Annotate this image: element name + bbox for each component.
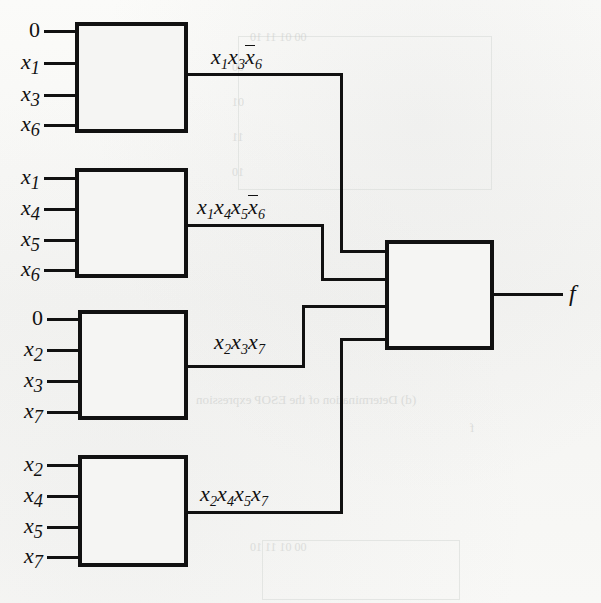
and-gate-1-to-or-wire — [340, 250, 388, 253]
input-label-text: x — [21, 49, 31, 74]
and-gate-2-input-wire-1 — [44, 177, 77, 180]
and-gate-4-to-or-wire — [340, 338, 388, 341]
term-sub: 5 — [244, 493, 251, 509]
input-label-text: x — [21, 111, 31, 136]
input-label-sub: 1 — [31, 173, 40, 193]
input-label-text: x — [21, 226, 31, 251]
and-gate-2-input-wire-3 — [44, 239, 77, 242]
input-label-sub: 7 — [34, 407, 43, 427]
term-literal: x — [251, 481, 261, 506]
term-sub: 7 — [258, 341, 265, 357]
and-gate-3-input-wire-1 — [47, 318, 80, 321]
term-sub: 1 — [221, 56, 228, 72]
and-gate-3-input-label-4: x7 — [19, 400, 43, 427]
and-gate-4-input-label-3: x5 — [19, 515, 43, 542]
input-label-text: x — [24, 513, 34, 538]
and-gate-2-input-wire-4 — [44, 269, 77, 272]
and-gate-4[interactable] — [78, 455, 188, 567]
input-label-text: x — [24, 451, 34, 476]
input-label-text: x — [24, 543, 34, 568]
term-literal: x — [211, 44, 221, 69]
bleed-text-1: 00 01 11 10 — [250, 30, 307, 45]
input-label-sub: 3 — [34, 376, 43, 396]
term-literal: x — [234, 481, 244, 506]
bleed-text-4: 11 — [232, 130, 244, 145]
and-gate-3-to-or-wire — [302, 305, 388, 308]
term-sub: 6 — [258, 206, 265, 222]
input-label-sub: 7 — [34, 552, 43, 572]
product-term-label-4: x2x4x5x7 — [200, 483, 268, 508]
term-literal: x — [214, 194, 224, 219]
input-label-text: x — [21, 256, 31, 281]
and-gate-3-input-label-3: x3 — [19, 369, 43, 396]
term-literal: x — [248, 329, 258, 354]
and-gate-3-input-wire-2 — [47, 349, 80, 352]
and-gate-1-input-wire-4 — [44, 124, 77, 127]
and-gate-1-input-label-2: x1 — [16, 51, 40, 78]
term-sub: 4 — [224, 206, 231, 222]
and-gate-1-input-label-4: x6 — [16, 113, 40, 140]
and-gate-3-output-riser — [302, 305, 305, 368]
bleed-kmap-1 — [238, 36, 492, 190]
and-gate-2-input-wire-2 — [44, 208, 77, 211]
term-sub: 4 — [227, 493, 234, 509]
and-gate-2[interactable] — [75, 168, 188, 278]
and-gate-1-output-riser — [340, 73, 343, 253]
input-label-text: x — [24, 367, 34, 392]
and-gate-4-output-wire — [186, 511, 343, 514]
output-label-f: f — [569, 281, 576, 305]
and-gate-3-input-wire-4 — [47, 411, 80, 414]
and-gate-2-input-label-3: x5 — [16, 228, 40, 255]
and-gate-1-input-wire-1 — [44, 30, 77, 33]
term-sub: 2 — [224, 341, 231, 357]
and-gate-4-input-wire-1 — [47, 464, 80, 467]
input-label-text: x — [21, 195, 31, 220]
term-literal: x — [231, 329, 241, 354]
bleed-text-9: f — [470, 420, 474, 436]
and-gate-4-input-wire-3 — [47, 526, 80, 529]
term-sub: 6 — [255, 56, 262, 72]
input-label-sub: 2 — [34, 345, 43, 365]
term-sub: 3 — [241, 341, 248, 357]
term-literal: x — [200, 481, 210, 506]
and-gate-3-output-wire — [186, 365, 305, 368]
input-label-text: x — [21, 81, 31, 106]
and-gate-3-input-label-1: 0 — [23, 307, 43, 329]
term-literal-complemented: x — [245, 45, 255, 68]
bleed-text-6: 00 01 11 10 — [250, 540, 307, 555]
input-label-sub: 6 — [31, 120, 40, 140]
input-label-sub: 4 — [31, 204, 40, 224]
bleed-text-5: 10 — [232, 165, 244, 180]
and-gate-2-to-or-wire — [321, 278, 388, 281]
and-gate-2-output-riser — [321, 224, 324, 281]
input-label-sub: 5 — [34, 522, 43, 542]
input-label-text: x — [24, 398, 34, 423]
and-gate-1-input-wire-2 — [44, 62, 77, 65]
bleed-kmap-2 — [262, 540, 460, 600]
term-literal: x — [217, 481, 227, 506]
term-literal: x — [214, 329, 224, 354]
or-gate[interactable] — [385, 240, 494, 350]
or-gate-output-wire — [492, 293, 563, 296]
term-sub: 1 — [207, 206, 214, 222]
and-gate-1-input-label-3: x3 — [16, 83, 40, 110]
and-gate-4-input-wire-2 — [47, 495, 80, 498]
input-label-sub: 1 — [31, 58, 40, 78]
term-literal-complemented: x — [248, 195, 258, 218]
and-gate-3[interactable] — [78, 310, 188, 420]
term-sub: 7 — [261, 493, 268, 509]
and-gate-1-input-label-1: 0 — [20, 19, 40, 41]
product-term-label-2: x1x4x5x6 — [197, 195, 265, 221]
input-label-sub: 2 — [34, 460, 43, 480]
term-literal: x — [231, 194, 241, 219]
and-gate-4-input-label-2: x4 — [19, 484, 43, 511]
input-label-sub: 3 — [31, 90, 40, 110]
bleed-text-3: 01 — [232, 95, 244, 110]
input-label-text: x — [24, 482, 34, 507]
and-gate-1[interactable] — [75, 22, 188, 133]
and-gate-1-output-wire — [186, 73, 343, 76]
input-label-sub: 5 — [31, 235, 40, 255]
logic-circuit-figure: (d) Determination of the ESOP expression… — [0, 0, 601, 603]
and-gate-2-output-wire — [186, 224, 324, 227]
term-sub: 5 — [241, 206, 248, 222]
